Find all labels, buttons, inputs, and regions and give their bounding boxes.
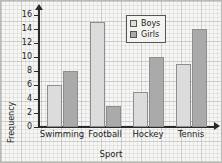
bar-football-boys[interactable] [90,22,105,127]
y-tick-label: 16 [22,11,32,19]
legend-swatch-boys [130,20,137,27]
y-tick-label: 4 [27,95,32,103]
bar-group [90,15,122,127]
y-tick [34,113,39,114]
x-axis-arrow-icon [214,122,220,130]
chart-legend: Boys Girls [126,15,166,43]
x-tick-label-tennis: Tennis [178,130,205,139]
legend-swatch-girls [130,31,137,38]
y-tick [34,15,39,16]
y-axis-line [38,9,40,127]
bar-tennis-girls[interactable] [192,29,207,127]
bar-swimming-boys[interactable] [47,85,62,127]
y-tick-label: 8 [27,67,32,75]
legend-item-girls[interactable]: Girls [130,29,160,40]
bar-group [176,15,208,127]
bar-football-girls[interactable] [106,106,121,127]
y-tick-label: 12 [22,39,32,47]
bar-hockey-girls[interactable] [149,57,164,127]
x-tick-label-swimming: Swimming [40,130,84,139]
y-axis-title: Frequency [7,102,16,143]
bar-tennis-boys[interactable] [176,64,191,127]
y-tick [34,127,39,128]
y-tick [34,71,39,72]
y-axis-arrow-icon [35,4,43,10]
bar-swimming-girls[interactable] [63,71,78,127]
bar-hockey-boys[interactable] [133,92,148,127]
y-tick-label: 14 [22,25,32,33]
y-tick [34,57,39,58]
y-tick-label: 6 [27,81,32,89]
y-tick-label: 10 [22,53,32,61]
x-axis-title: Sport [1,149,221,159]
y-tick-label: 2 [27,109,32,117]
legend-label-girls: Girls [141,31,159,39]
x-tick-label-hockey: Hockey [132,130,163,139]
y-tick [34,85,39,86]
x-tick-label-football: Football [88,130,122,139]
bar-chart-figure: Frequency 0246810121416 SwimmingFootball… [0,0,222,163]
legend-label-boys: Boys [141,20,160,28]
y-tick [34,99,39,100]
legend-item-boys[interactable]: Boys [130,18,160,29]
bar-group [47,15,79,127]
y-tick [34,43,39,44]
y-tick-label: 0 [27,123,32,131]
y-tick [34,29,39,30]
